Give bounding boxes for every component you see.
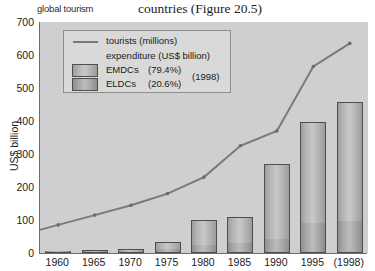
x-tick-label-1995: 1995 — [301, 256, 324, 268]
bar-segment-eldc — [192, 245, 216, 252]
y-tick-label-200: 200 — [16, 181, 34, 193]
x-tick-label-1980: 1980 — [191, 256, 214, 268]
y-tick-label-500: 500 — [16, 82, 34, 94]
bar-1990 — [264, 164, 290, 253]
legend-year-note: (1998) — [192, 71, 219, 82]
x-tick-label-1985: 1985 — [228, 256, 251, 268]
bar-segment-emdc — [338, 103, 362, 223]
legend-eldc-percent: (20.6%) — [148, 78, 181, 89]
tourists-data-point-1998 — [348, 42, 352, 46]
bar-segment-eldc — [228, 243, 252, 252]
tourists-data-point-1980 — [202, 175, 206, 179]
bar-segment-emdc — [192, 221, 216, 247]
bar-1975 — [155, 242, 181, 253]
legend-emdc-percent: (79.4%) — [148, 64, 181, 75]
bar-segment-eldc — [301, 223, 325, 252]
header-left-text: global tourism — [37, 3, 93, 14]
x-tick-label-1990: 1990 — [264, 256, 287, 268]
tourists-data-point-1975 — [166, 192, 170, 196]
bar-segment-eldc — [83, 251, 107, 252]
bar-segment-emdc — [301, 123, 325, 225]
x-axis: 19601965197019751980198519901995(1998) — [39, 253, 367, 271]
legend-emdc-label: EMDCs — [106, 64, 139, 75]
y-tick-label-100: 100 — [16, 214, 34, 226]
y-axis: US$ billion 0100200300400500600700 — [0, 22, 39, 262]
bar-1985 — [227, 217, 253, 253]
y-tick-label-600: 600 — [16, 49, 34, 61]
y-tick-label-300: 300 — [16, 148, 34, 160]
tourists-data-point-1995 — [312, 65, 316, 69]
bar-segment-eldc — [46, 251, 70, 252]
y-tick-label-700: 700 — [16, 16, 34, 28]
tourists-data-point-1985 — [239, 144, 243, 148]
tourists-data-point-1990 — [275, 129, 279, 133]
legend-tourists-label: tourists (millions) — [106, 35, 177, 46]
x-tick-label-1960: 1960 — [46, 256, 69, 268]
y-tick-label-0: 0 — [28, 247, 34, 259]
bar-segment-emdc — [265, 165, 289, 241]
x-tick-label-1998: (1998) — [334, 256, 364, 268]
x-tick-label-1970: 1970 — [118, 256, 141, 268]
bar-segment-emdc — [228, 218, 252, 244]
bar-segment-eldc — [338, 221, 362, 252]
bar-segment-eldc — [119, 251, 143, 252]
x-tick-label-1965: 1965 — [82, 256, 105, 268]
figure-header: global tourism countries (Figure 20.5) — [0, 0, 375, 20]
bar-segment-eldc — [265, 239, 289, 252]
legend-expenditure-label: expenditure (US$ billion) — [106, 50, 210, 61]
tourists-data-point-1970 — [129, 203, 133, 207]
chart-figure: global tourism countries (Figure 20.5) U… — [0, 0, 375, 271]
bar-segment-eldc — [156, 249, 180, 252]
x-tick-label-1975: 1975 — [155, 256, 178, 268]
header-right-text: countries (Figure 20.5) — [138, 1, 262, 17]
legend-emdc-swatch — [72, 64, 98, 77]
bar-1995 — [300, 122, 326, 253]
tourists-data-point-1965 — [93, 213, 97, 217]
legend-eldc-label: ELDCs — [106, 78, 136, 89]
bar-1980 — [191, 220, 217, 253]
legend-line-swatch — [73, 41, 98, 43]
chart-legend: tourists (millions) expenditure (US$ bil… — [63, 30, 231, 93]
tourists-data-point-1960 — [56, 223, 60, 227]
legend-eldc-swatch — [72, 78, 98, 91]
y-tick-label-400: 400 — [16, 115, 34, 127]
bar-1998 — [337, 102, 363, 253]
